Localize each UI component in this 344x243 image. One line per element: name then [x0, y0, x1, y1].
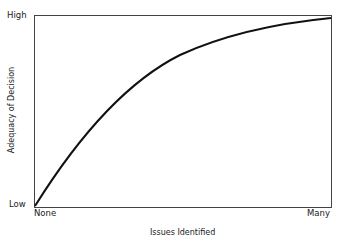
- x-tick-many: Many: [307, 208, 330, 218]
- y-tick-low: Low: [9, 199, 26, 209]
- y-tick-high: High: [7, 10, 27, 20]
- x-axis-label: Issues Identified: [150, 228, 215, 237]
- chart-plot: [0, 0, 344, 243]
- adequacy-curve: [35, 18, 331, 206]
- y-axis-label: Adequacy of Decision: [7, 67, 16, 153]
- x-tick-none: None: [34, 208, 56, 218]
